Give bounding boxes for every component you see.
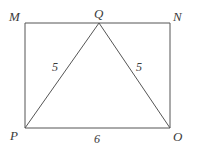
measure-label-qo: 5 [136, 61, 142, 73]
segment-qo [99, 23, 170, 128]
vertex-label-m: M [9, 10, 20, 23]
segment-pq [25, 23, 99, 128]
rectangle-mnop [25, 23, 170, 128]
measure-label-pq: 5 [52, 61, 58, 73]
vertex-label-q: Q [94, 7, 103, 20]
vertex-label-n: N [173, 10, 182, 23]
geometry-diagram: M Q N P O 5 5 6 [0, 0, 203, 158]
vertex-label-p: P [10, 129, 18, 142]
vertex-label-o: O [173, 130, 182, 143]
measure-label-po: 6 [94, 133, 100, 145]
